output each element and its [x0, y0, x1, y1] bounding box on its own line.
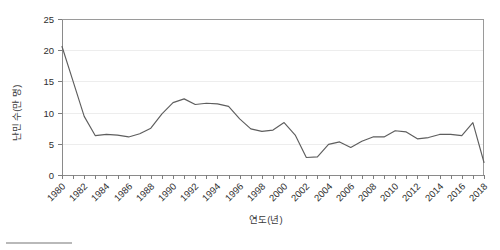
- x-tick-label: 1988: [134, 181, 157, 204]
- x-tick-label: 2016: [445, 181, 468, 204]
- x-tick-label: 2012: [400, 181, 423, 204]
- gridlines: [62, 20, 484, 145]
- x-tick-label: 2004: [312, 181, 335, 204]
- y-tick-label: 25: [43, 14, 54, 25]
- y-tick-label: 10: [43, 108, 54, 119]
- x-tick-label: 1984: [89, 181, 112, 204]
- x-axis-title: 연도(년): [0, 212, 500, 226]
- y-tick-label: 20: [43, 45, 54, 56]
- x-tick-label: 2014: [423, 181, 446, 204]
- x-tick-label: 2002: [289, 181, 312, 204]
- series-line-0: [62, 46, 484, 162]
- y-axis-ticks: 0510152025: [43, 14, 62, 181]
- x-tick-label: 1992: [178, 181, 201, 204]
- x-tick-label: 1986: [112, 181, 135, 204]
- refugee-line-chart: 난민 수(만 명) 0510152025 1980198219841986198…: [0, 0, 500, 250]
- x-tick-label: 2018: [467, 181, 490, 204]
- x-tick-label: 2010: [378, 181, 401, 204]
- x-tick-label: 1996: [223, 181, 246, 204]
- y-tick-label: 0: [49, 170, 54, 181]
- x-tick-label: 2006: [334, 181, 357, 204]
- y-tick-label: 15: [43, 76, 54, 87]
- x-tick-label: 2008: [356, 181, 379, 204]
- plot-frame: [62, 19, 484, 176]
- y-tick-label: 5: [49, 139, 54, 150]
- x-tick-label: 1982: [67, 181, 90, 204]
- x-tick-label: 1990: [156, 181, 179, 204]
- data-series-line: [62, 46, 484, 162]
- x-tick-label: 1980: [45, 181, 68, 204]
- x-axis-tick-labels: 1980198219841986198819901992199419961998…: [45, 181, 490, 204]
- footer-rule: [6, 242, 72, 244]
- x-tick-label: 1994: [200, 181, 223, 204]
- x-tick-label: 2000: [267, 181, 290, 204]
- x-tick-label: 1998: [245, 181, 268, 204]
